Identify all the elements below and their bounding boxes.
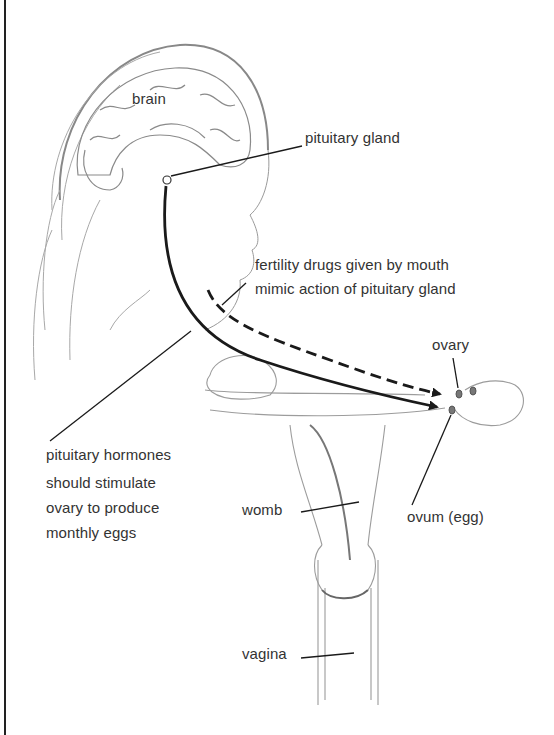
anatomy-illustration [0,0,554,735]
label-fertility-drugs-line2: mimic action of pituitary gland [255,280,456,297]
label-pituitary-hormones-line3: ovary to produce [46,499,159,516]
ovum-shape [449,406,455,414]
pituitary-gland-shape [163,176,171,184]
leader-ovary [453,358,458,388]
ovary-follicles [449,387,476,414]
leader-vagina [301,653,354,658]
label-pituitary-hormones-line2: should stimulate [46,474,156,491]
leader-pituitary-hormones [50,331,191,441]
label-pituitary-gland: pituitary gland [305,129,400,146]
leader-pituitary-gland [171,146,302,176]
label-brain: brain [132,90,166,107]
label-womb: womb [242,501,282,518]
leader-ovum [412,415,451,505]
brain-sketch [77,68,250,190]
label-pituitary-hormones-line1: pituitary hormones [46,446,171,463]
label-ovary: ovary [432,336,469,353]
label-pituitary-hormones-line4: monthly eggs [46,524,136,541]
leader-fertility-drugs [222,283,246,305]
label-fertility-drugs-line1: fertility drugs given by mouth [255,256,449,273]
label-ovum: ovum (egg) [407,508,484,525]
label-vagina: vagina [242,645,287,662]
